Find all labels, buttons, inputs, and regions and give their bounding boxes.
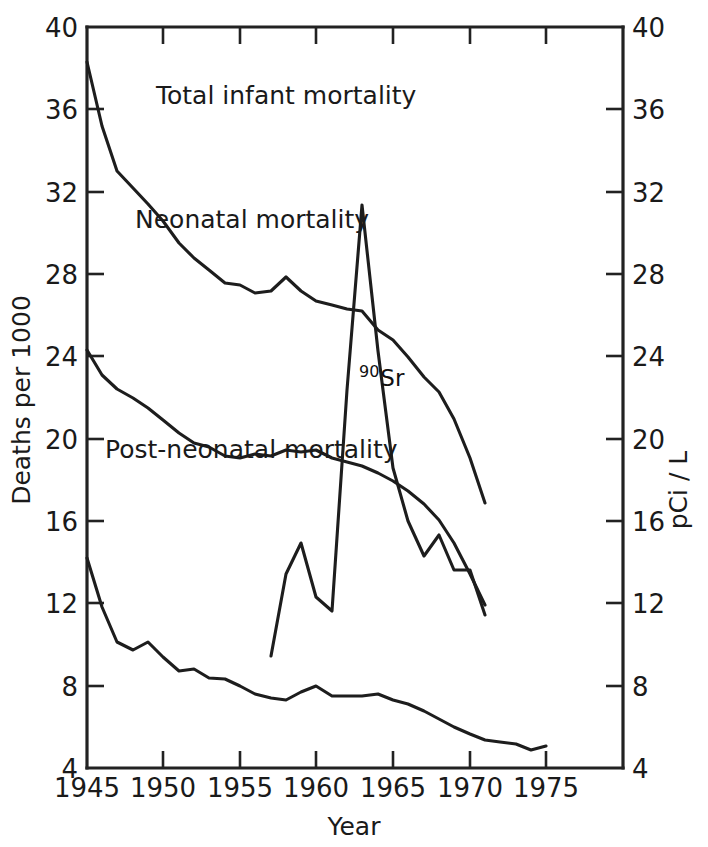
y-right-tick-label: 28 <box>632 260 665 290</box>
chart-figure: 40 36 32 28 24 20 16 12 8 4 40 36 32 28 … <box>0 0 708 847</box>
strontium-symbol: Sr <box>380 365 405 391</box>
y-left-tick-label: 28 <box>45 260 78 290</box>
y-right-tick-label: 16 <box>632 507 665 537</box>
y-right-tick-label: 24 <box>632 342 665 372</box>
y-left-tick-label: 16 <box>45 507 78 537</box>
y-left-axis-title: Deaths per 1000 <box>7 295 36 505</box>
series-label-total-infant-mortality: Total infant mortality <box>155 81 417 110</box>
y-left-tick-label: 40 <box>45 13 78 43</box>
y-left-tick-labels: 40 36 32 28 24 20 16 12 8 4 <box>45 13 78 784</box>
y-right-tick-label: 32 <box>632 178 665 208</box>
y-right-axis-title: pCi / L <box>664 451 693 530</box>
series-label-neonatal-mortality: Neonatal mortality <box>135 205 369 234</box>
strontium-mass-number: 90 <box>359 362 379 381</box>
series-strontium-90 <box>271 205 485 656</box>
y-left-tick-label: 8 <box>61 672 78 702</box>
y-right-tick-label: 12 <box>632 589 665 619</box>
y-left-tick-label: 32 <box>45 178 78 208</box>
y-left-tick-label: 36 <box>45 95 78 125</box>
series-neonatal-mortality <box>87 350 485 605</box>
x-tick-label: 1975 <box>513 773 579 803</box>
x-ticks-top <box>163 27 546 44</box>
series-label-post-neonatal-mortality: Post-neonatal mortality <box>105 435 398 464</box>
y-right-tick-label: 40 <box>632 13 665 43</box>
x-tick-label: 1965 <box>360 773 426 803</box>
x-ticks-bottom <box>163 751 546 768</box>
x-axis-title: Year <box>327 812 382 841</box>
series-label-strontium-90: 90Sr <box>359 362 405 392</box>
x-tick-label: 1955 <box>207 773 273 803</box>
x-tick-label: 1970 <box>437 773 503 803</box>
y-right-tick-labels: 40 36 32 28 24 20 16 12 8 4 <box>632 13 665 784</box>
plot-frame <box>87 27 623 768</box>
y-right-tick-label: 4 <box>632 754 649 784</box>
y-right-tick-label: 8 <box>632 672 649 702</box>
y-left-tick-label: 12 <box>45 589 78 619</box>
x-tick-label: 1960 <box>283 773 349 803</box>
y-left-ticks <box>87 109 104 686</box>
x-tick-label: 1950 <box>130 773 196 803</box>
y-right-ticks <box>606 109 623 686</box>
y-left-tick-label: 24 <box>45 342 78 372</box>
x-tick-label: 1945 <box>54 773 120 803</box>
y-right-tick-label: 36 <box>632 95 665 125</box>
y-left-tick-label: 20 <box>45 425 78 455</box>
x-tick-labels: 1945 1950 1955 1960 1965 1970 1975 <box>54 773 579 803</box>
svg-text:90Sr: 90Sr <box>359 362 405 392</box>
line-chart: 40 36 32 28 24 20 16 12 8 4 40 36 32 28 … <box>0 0 708 847</box>
y-right-tick-label: 20 <box>632 425 665 455</box>
